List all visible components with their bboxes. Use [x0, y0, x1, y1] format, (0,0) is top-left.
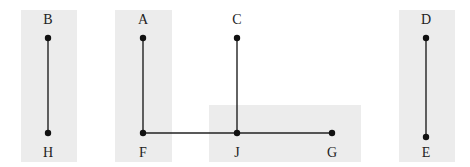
node-a — [140, 35, 146, 41]
node-label-d: D — [421, 12, 431, 27]
node-g — [329, 130, 335, 136]
node-label-e: E — [422, 145, 431, 160]
node-label-h: H — [43, 145, 53, 160]
node-label-j: J — [234, 145, 240, 160]
node-j — [234, 130, 240, 136]
node-e — [423, 134, 429, 140]
node-b — [45, 35, 51, 41]
node-h — [45, 130, 51, 136]
node-label-f: F — [139, 145, 147, 160]
node-label-g: G — [327, 145, 337, 160]
graph-diagram: BHAFCJGDE — [0, 0, 470, 167]
node-f — [140, 130, 146, 136]
node-c — [234, 35, 240, 41]
node-label-a: A — [138, 12, 149, 27]
graph-svg: BHAFCJGDE — [0, 0, 470, 167]
node-label-b: B — [43, 12, 52, 27]
node-d — [423, 35, 429, 41]
node-label-c: C — [232, 12, 241, 27]
edges — [48, 38, 426, 137]
